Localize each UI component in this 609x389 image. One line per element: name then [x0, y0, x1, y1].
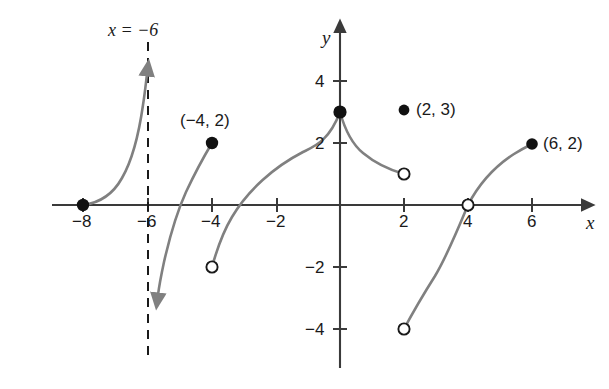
filled-point--4-2: [206, 137, 218, 149]
asymptote-label-x-equals-neg6: x = −6: [108, 21, 158, 39]
x-tick-label-6: 6: [527, 213, 536, 230]
y-axis-label: y: [322, 28, 330, 47]
open-point--4--2: [206, 261, 217, 272]
branch-4-curve: [340, 112, 404, 174]
filled-endpoints: [77, 105, 538, 212]
y-tick-label-2: 2: [315, 135, 324, 152]
filled-point-6-2: [526, 138, 538, 150]
x-tick-label--4: −4: [201, 213, 220, 230]
point-label--4-2: (−4, 2): [180, 112, 230, 129]
asymptote-label-text: x = −6: [108, 20, 158, 40]
filled-point-2-3: [399, 105, 410, 116]
branch-1-curve: [83, 74, 147, 205]
x-tick-label-2: 2: [399, 213, 408, 230]
y-tick-label--4: −4: [305, 321, 324, 338]
x-tick-label--2: −2: [266, 213, 285, 230]
filled-point--8-0: [77, 199, 89, 211]
x-tick-label--8: −8: [72, 213, 91, 230]
x-tick-label--6: −6: [137, 213, 156, 230]
x-axis-label: x: [586, 213, 594, 232]
x-tick-label-4: 4: [463, 213, 472, 230]
point-label-2-3: (2, 3): [416, 101, 456, 118]
point-label-6-2: (6, 2): [543, 135, 583, 152]
open-point-2--4: [398, 323, 409, 334]
branch-5-curve: [404, 144, 532, 329]
filled-point-0-3: [333, 105, 346, 118]
graph-figure: x = −6 (−4, 2) (2, 3) (6, 2) −8 −6 −4 −2…: [0, 0, 609, 389]
open-point-2-1: [398, 168, 409, 179]
y-tick-label--2: −2: [305, 259, 324, 276]
open-point-4-0: [462, 199, 473, 210]
y-tick-label-4: 4: [315, 73, 324, 90]
